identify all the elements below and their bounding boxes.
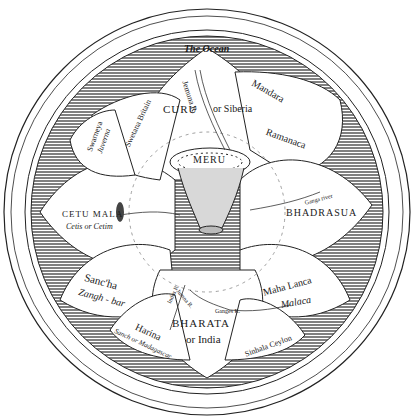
label-siberia: or Siberia — [213, 104, 252, 114]
label-cetu-mala: CETU MALA — [62, 210, 123, 219]
label-meru: MERU — [193, 155, 226, 165]
label-ocean: The Ocean — [184, 44, 229, 54]
label-india: or India — [186, 334, 221, 345]
label-bharata: BHARATA — [172, 318, 230, 329]
label-cetim: Cetis or Cetim — [66, 223, 113, 231]
meru-map: The Ocean CURU or Siberia Jemuna R. Mand… — [0, 0, 414, 420]
label-bhadrasua: BHADRASUA — [286, 208, 357, 218]
label-ganges-river: Ganges R. — [215, 308, 240, 314]
